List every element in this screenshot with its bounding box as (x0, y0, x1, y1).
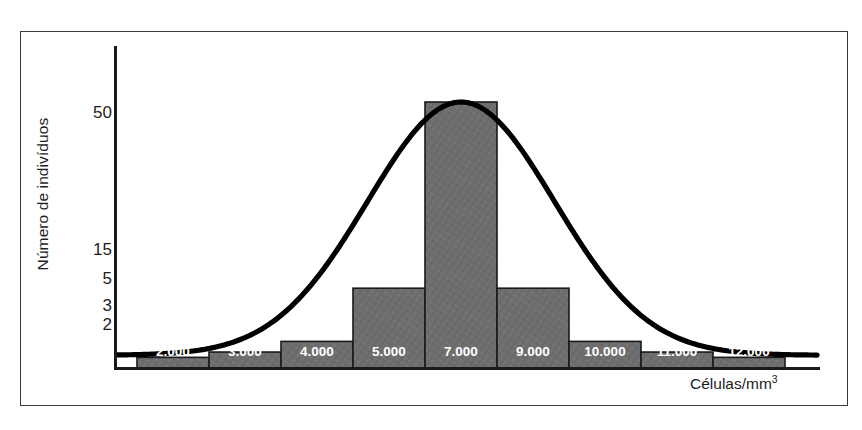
bar-category-label: 4.000 (281, 345, 353, 359)
bar-category-label: 9.000 (497, 345, 569, 359)
bar-category-label: 2.000 (137, 345, 209, 359)
histogram-bar (425, 102, 497, 368)
histogram-bars (137, 102, 785, 368)
figure-container: Número de indivíduos 50 15 5 3 2 2.0003.… (0, 0, 862, 430)
bar-category-label: 10.000 (569, 345, 641, 359)
x-axis-title-base: Células/mm (690, 375, 772, 392)
chart-plot-area (0, 0, 862, 430)
bar-category-label: 7.000 (425, 345, 497, 359)
x-axis-title: Células/mm3 (690, 375, 778, 393)
bar-category-label: 11.000 (641, 345, 713, 359)
x-axis-title-exponent: 3 (772, 373, 778, 385)
bar-category-label: 12.000 (713, 345, 785, 359)
bar-category-label: 5.000 (353, 345, 425, 359)
bar-category-label: 3.000 (209, 345, 281, 359)
